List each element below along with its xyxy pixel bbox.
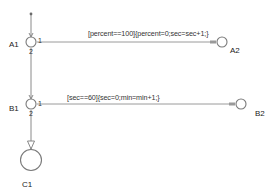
default-transition-dot	[30, 13, 33, 16]
junction-b1-label: B1	[9, 105, 19, 113]
junction-a1-port-1: 1	[38, 37, 42, 44]
junction-b1-port-2: 2	[29, 110, 33, 117]
junction-b2-label: B2	[255, 110, 265, 118]
junction-c1-label: C1	[22, 181, 32, 189]
junction-a2[interactable]	[217, 37, 227, 47]
junction-b1[interactable]	[26, 99, 36, 109]
transition-a1-a2-arrowhead-icon	[210, 41, 216, 44]
junction-b2[interactable]	[236, 99, 246, 109]
junction-a1-label: A1	[9, 41, 19, 49]
junction-a1-port-2: 2	[29, 48, 33, 55]
transition-a1-a2-label[interactable]: [percent==100]{percent=0;sec=sec+1;}	[88, 30, 208, 37]
junction-a2-label: A2	[230, 47, 240, 55]
junction-a1[interactable]	[26, 37, 36, 47]
transition-b1-c1-arrowhead-icon	[28, 141, 35, 149]
junction-c1[interactable]	[21, 150, 42, 171]
transition-b1-b2-arrowhead-icon	[229, 103, 235, 106]
transition-b1-b2-label[interactable]: [sec==60]{sec=0;min=min+1;}	[67, 94, 160, 101]
junction-b1-port-1: 1	[38, 100, 42, 107]
